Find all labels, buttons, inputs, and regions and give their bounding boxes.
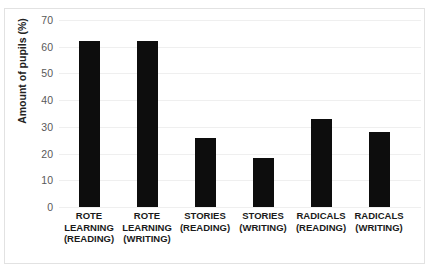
bar bbox=[311, 119, 332, 207]
bar bbox=[79, 41, 100, 207]
x-axis-category-label: ROTE LEARNING (WRITING) bbox=[118, 210, 176, 245]
y-axis-title: Amount of pupils (%) bbox=[16, 0, 28, 151]
gridline bbox=[59, 100, 421, 101]
gridline bbox=[59, 207, 421, 208]
y-axis-tick-label: 0 bbox=[47, 201, 53, 213]
gridline bbox=[59, 20, 421, 21]
bar bbox=[195, 138, 216, 207]
bar bbox=[253, 158, 274, 207]
y-axis-tick-label: 50 bbox=[41, 67, 53, 79]
bar bbox=[369, 132, 390, 207]
y-axis-tick-label: 20 bbox=[41, 148, 53, 160]
y-axis-tick-label: 30 bbox=[41, 121, 53, 133]
x-axis-category-label: STORIES (WRITING) bbox=[234, 210, 292, 233]
x-axis-category-label: ROTE LEARNING (READING) bbox=[60, 210, 118, 245]
gridline bbox=[59, 180, 421, 181]
y-axis-tick-label: 40 bbox=[41, 94, 53, 106]
gridline bbox=[59, 47, 421, 48]
x-axis-category-label: RADICALS (WRITING) bbox=[350, 210, 408, 233]
gridline bbox=[59, 73, 421, 74]
y-axis-tick-label: 60 bbox=[41, 41, 53, 53]
y-axis-tick-label: 70 bbox=[41, 14, 53, 26]
x-axis-category-label: STORIES (READING) bbox=[176, 210, 234, 233]
gridline bbox=[59, 154, 421, 155]
y-axis-tick-label: 10 bbox=[41, 174, 53, 186]
bar bbox=[137, 41, 158, 207]
x-axis-category-label: RADICALS (READING) bbox=[292, 210, 350, 233]
gridline bbox=[59, 127, 421, 128]
bar-chart: Amount of pupils (%) 706050403020100 ROT… bbox=[4, 8, 425, 264]
plot-area: 706050403020100 ROTE LEARNING (READING)R… bbox=[59, 9, 421, 265]
